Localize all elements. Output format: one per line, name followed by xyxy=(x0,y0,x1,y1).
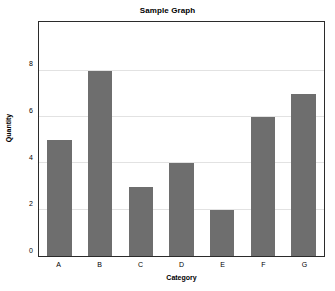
x-tick-label-e: E xyxy=(202,260,243,272)
x-axis-tick-labels: ABCDEFG xyxy=(38,260,325,272)
y-tick-label: 0 xyxy=(3,247,33,254)
bar-slot xyxy=(39,22,80,256)
y-tick-label: 8 xyxy=(3,60,33,67)
bar-slot xyxy=(80,22,121,256)
x-tick-label-f: F xyxy=(243,260,284,272)
plot-area xyxy=(38,21,325,257)
bar-slot xyxy=(202,22,243,256)
bar-chart-figure: Sample Graph Quantity 02468 ABCDEFG Cate… xyxy=(0,0,335,291)
bar-a[interactable] xyxy=(47,140,71,256)
x-tick-label-g: G xyxy=(284,260,325,272)
x-tick-label-a: A xyxy=(38,260,79,272)
bar-slot xyxy=(243,22,284,256)
y-tick-label: 2 xyxy=(3,200,33,207)
bar-slot xyxy=(120,22,161,256)
x-axis-title: Category xyxy=(38,273,325,282)
chart-title: Sample Graph xyxy=(0,6,335,16)
y-tick-label: 4 xyxy=(3,153,33,160)
bar-c[interactable] xyxy=(129,187,153,257)
bar-slot xyxy=(161,22,202,256)
bar-f[interactable] xyxy=(251,117,275,256)
y-tick-label: 6 xyxy=(3,106,33,113)
bar-d[interactable] xyxy=(169,163,193,256)
x-tick-label-d: D xyxy=(161,260,202,272)
x-tick-label-b: B xyxy=(79,260,120,272)
bar-g[interactable] xyxy=(291,94,315,256)
bar-slot xyxy=(283,22,324,256)
x-tick-label-c: C xyxy=(120,260,161,272)
y-axis-tick-labels: 02468 xyxy=(0,21,33,257)
bar-b[interactable] xyxy=(88,71,112,256)
bar-e[interactable] xyxy=(210,210,234,256)
bar-series xyxy=(39,22,324,256)
